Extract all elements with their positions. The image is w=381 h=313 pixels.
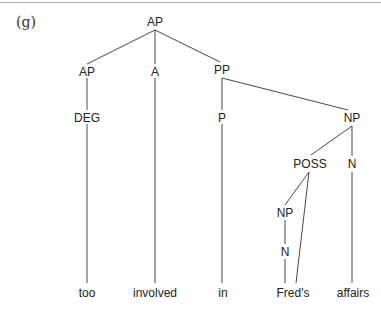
edge-np-poss — [311, 126, 352, 155]
node-a: A — [151, 65, 159, 79]
node-pp: PP — [214, 63, 230, 77]
leaf-in: in — [218, 286, 227, 300]
node-root-ap: AP — [147, 15, 163, 29]
leaf-involved: involved — [133, 286, 177, 300]
edge-poss-freds — [296, 172, 309, 283]
node-n-head: N — [348, 157, 357, 171]
node-p: P — [218, 111, 226, 125]
node-np: NP — [344, 111, 361, 125]
leaf-freds: Fred's — [277, 286, 310, 300]
syntax-tree: AP AP A PP DEG P NP POSS N NP N too invo… — [0, 0, 381, 313]
edge-root-pp — [155, 30, 220, 62]
node-n-inner: N — [281, 245, 290, 259]
node-np-inner: NP — [277, 206, 294, 220]
leaf-affairs: affairs — [337, 286, 369, 300]
node-ap: AP — [79, 65, 95, 79]
node-deg: DEG — [74, 111, 100, 125]
node-poss: POSS — [293, 157, 326, 171]
leaf-too: too — [79, 286, 96, 300]
edge-root-ap — [87, 30, 155, 64]
edge-pp-np — [222, 78, 348, 110]
